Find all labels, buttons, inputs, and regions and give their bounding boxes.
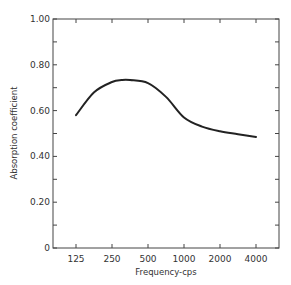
y-tick-label: 0 — [44, 243, 50, 253]
x-tick-label: 2000 — [209, 254, 232, 264]
y-tick-label: 0.60 — [30, 106, 50, 116]
y-axis-title: Absorption coefficient — [9, 86, 19, 180]
y-tick-label: 0.40 — [30, 151, 50, 161]
x-axis-ticks: 125250500100020004000 — [67, 19, 267, 264]
x-tick-label: 1000 — [173, 254, 196, 264]
x-tick-label: 4000 — [245, 254, 268, 264]
x-tick-label: 125 — [67, 254, 84, 264]
absorption-chart: 00.200.400.600.801.00 125250500100020004… — [0, 0, 291, 285]
y-tick-label: 1.00 — [30, 14, 50, 24]
y-axis-ticks: 00.200.400.600.801.00 — [30, 14, 279, 253]
absorption-curve — [76, 80, 256, 137]
plot-frame — [53, 19, 279, 248]
x-tick-label: 250 — [103, 254, 120, 264]
y-tick-label: 0.80 — [30, 60, 50, 70]
x-tick-label: 500 — [139, 254, 156, 264]
x-axis-title: Frequency-cps — [135, 267, 197, 277]
y-tick-label: 0.20 — [30, 197, 50, 207]
